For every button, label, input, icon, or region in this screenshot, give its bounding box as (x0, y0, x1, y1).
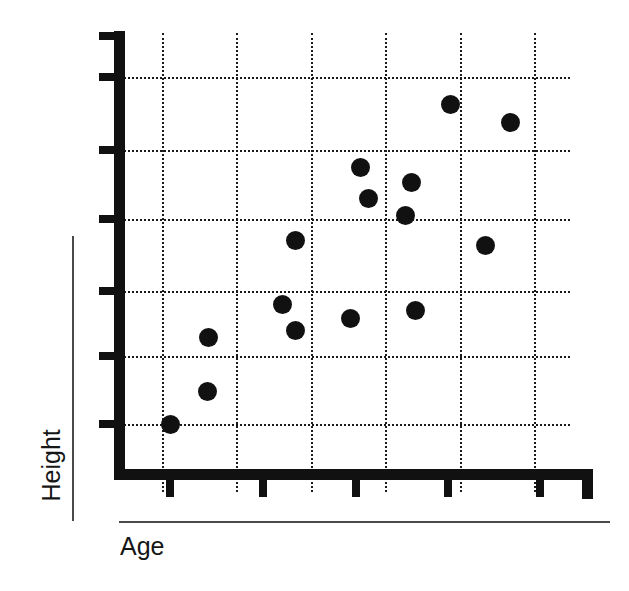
x-axis-tick (259, 478, 267, 497)
x-axis-title: Age (120, 532, 164, 561)
data-point (198, 382, 217, 401)
data-point (341, 309, 360, 328)
x-axis-title-rule (119, 521, 610, 523)
gridline-horizontal (116, 291, 570, 293)
y-axis-title-group: Height (22, 236, 74, 521)
data-point (402, 173, 421, 192)
x-axis-tick (444, 478, 452, 497)
data-point (359, 189, 378, 208)
x-axis-tick (166, 478, 174, 497)
x-axis-tick (352, 478, 360, 497)
y-axis-title-rule (72, 236, 74, 521)
gridline-horizontal (116, 424, 570, 426)
data-point (441, 95, 460, 114)
data-point (406, 301, 425, 320)
data-point (199, 328, 218, 347)
y-axis-tick (99, 287, 117, 295)
y-axis-tick (99, 352, 117, 360)
gridline-horizontal (116, 219, 570, 221)
data-point (501, 113, 520, 132)
data-point (286, 321, 305, 340)
data-point (476, 236, 495, 255)
y-axis-tick (99, 146, 117, 154)
y-axis-tick (99, 420, 117, 428)
y-axis-title: Height (37, 252, 66, 502)
gridline-horizontal (116, 77, 570, 79)
data-point (351, 158, 370, 177)
data-point (286, 231, 305, 250)
gridline-horizontal (116, 356, 570, 358)
x-axis-tick (536, 478, 544, 497)
data-point (161, 415, 180, 434)
x-axis-title-group: Age (119, 521, 610, 577)
x-axis-end-cap (582, 478, 593, 499)
plot-area (124, 33, 570, 470)
gridline-horizontal (116, 150, 570, 152)
y-axis-tick (99, 215, 117, 223)
scatter-chart-figure: Height Age (0, 0, 629, 591)
data-point (273, 295, 292, 314)
y-axis-line (114, 31, 125, 480)
y-axis-tick (99, 32, 117, 40)
y-axis-tick (99, 73, 117, 81)
data-point (396, 206, 415, 225)
